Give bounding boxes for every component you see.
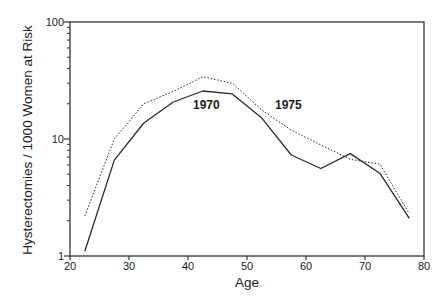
y-tick-label: 10: [52, 133, 64, 145]
series-lines: [85, 77, 410, 251]
x-tick-label: 40: [182, 260, 194, 272]
x-tick-label: 30: [123, 260, 135, 272]
plot-frame: [70, 22, 424, 256]
y-tick-label: 100: [46, 16, 64, 28]
x-axis-title: Age: [235, 275, 259, 290]
line-chart: 110100 20304050607080 1970 1975 Age Hyst…: [0, 0, 448, 302]
series-line-1970: [85, 91, 410, 251]
y-axis-title: Hysterectomies / 1000 Women at Risk: [20, 25, 35, 255]
x-tick-label: 80: [418, 260, 430, 272]
series-line-1975: [85, 77, 410, 216]
x-tick-label: 60: [300, 260, 312, 272]
y-axis: 110100: [46, 16, 70, 262]
x-tick-label: 70: [359, 260, 371, 272]
plot-border: [70, 22, 424, 256]
x-axis: 20304050607080: [64, 256, 430, 272]
x-tick-label: 20: [64, 260, 76, 272]
series-label-1970: 1970: [193, 98, 220, 112]
chart: 110100 20304050607080 1970 1975 Age Hyst…: [0, 0, 448, 302]
x-tick-label: 50: [241, 260, 253, 272]
series-label-1975: 1975: [275, 98, 302, 112]
